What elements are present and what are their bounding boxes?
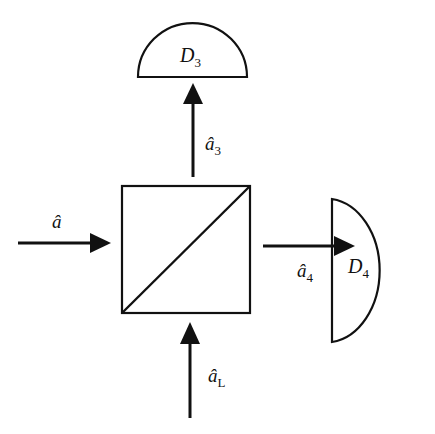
beam-splitter [122, 186, 250, 313]
output-4-arrow [263, 236, 355, 256]
detector-3-label: D3 [179, 44, 201, 70]
local-oscillator-label: âL [208, 365, 226, 390]
output-4-label: â4 [297, 260, 314, 285]
input-arrow [18, 233, 111, 253]
detector-4-label: D4 [347, 255, 369, 281]
local-oscillator-arrow [180, 322, 200, 418]
beam-splitter-diagram: â â3 â4 âL D3 D4 [0, 0, 435, 434]
output-3-arrow [183, 83, 203, 177]
output-3-label: â3 [205, 133, 221, 158]
splitter-diagonal [123, 187, 249, 312]
input-mode-label: â [52, 211, 62, 232]
